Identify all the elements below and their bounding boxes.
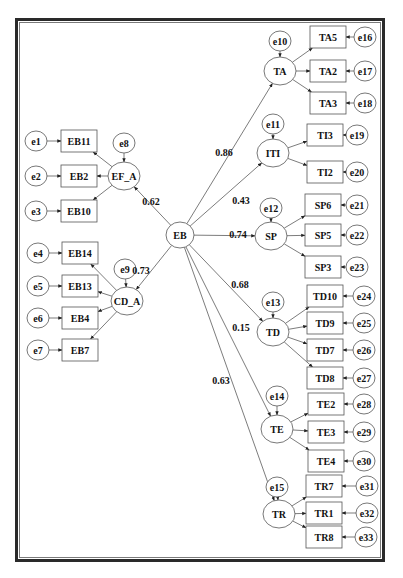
path-td-to-td7: [288, 337, 307, 344]
error-label-e22: e22: [350, 230, 364, 241]
error-label-e23: e23: [350, 262, 364, 273]
path-cd-a-to-eb13: [98, 292, 112, 296]
error-label-e31: e31: [360, 481, 374, 492]
path-coefficient-td: 0.68: [231, 279, 249, 290]
indicator-label-ti3: TI3: [317, 130, 333, 141]
error-label-e33: e33: [359, 532, 373, 543]
path-sp-to-sp3: [284, 244, 305, 256]
path-coefficient-ta: 0.86: [215, 147, 233, 158]
nodes-layer: EBEF_Ae8EB11e1EB2e2EB10e3CD_Ae9EB14e4EB1…: [25, 26, 378, 548]
error-label-e32: e32: [360, 508, 374, 519]
error-label-e16: e16: [358, 32, 372, 43]
indicator-label-eb10: EB10: [67, 206, 90, 217]
indicator-label-sp3: SP3: [315, 262, 332, 273]
path-iti-to-ti3: [288, 141, 307, 148]
error-label-e11: e11: [266, 119, 280, 130]
error-label-e4: e4: [33, 248, 42, 259]
path-ta-to-ta5: [292, 48, 312, 62]
path-ef-a-to-eb10: [93, 185, 112, 200]
error-label-e2: e2: [31, 171, 40, 182]
indicator-label-te3: TE3: [317, 427, 335, 438]
error-label-e14: e14: [270, 391, 284, 402]
indicator-label-eb13: EB13: [68, 281, 91, 292]
latent-label-te: TE: [270, 424, 284, 435]
indicator-label-sp5: SP5: [315, 230, 332, 241]
path-iti-to-ti2: [288, 158, 307, 165]
error-label-e28: e28: [357, 399, 371, 410]
indicator-label-ti2: TI2: [317, 167, 333, 178]
path-tr-to-tr8: [293, 521, 306, 528]
error-label-e26: e26: [357, 345, 371, 356]
indicator-label-sp6: SP6: [315, 200, 332, 211]
indicator-label-eb11: EB11: [68, 136, 91, 147]
latent-label-td: TD: [266, 327, 280, 338]
error-label-e19: e19: [350, 130, 364, 141]
latent-label-eb: EB: [173, 230, 187, 241]
path-eb-to-td: [189, 245, 262, 322]
error-label-e5: e5: [33, 281, 42, 292]
indicator-label-ta3: TA3: [319, 98, 337, 109]
error-label-e3: e3: [31, 206, 40, 217]
error-label-e20: e20: [350, 167, 364, 178]
error-label-e10: e10: [273, 36, 287, 47]
path-coefficient-cd-a: 0.73: [132, 265, 150, 276]
sem-path-diagram: EBEF_Ae8EB11e1EB2e2EB10e3CD_Ae9EB14e4EB1…: [0, 0, 403, 578]
error-label-e27: e27: [357, 373, 371, 384]
error-label-e6: e6: [33, 313, 42, 324]
latent-label-iti: ITI: [266, 148, 281, 159]
error-label-e29: e29: [357, 427, 371, 438]
error-label-e7: e7: [33, 345, 42, 356]
indicator-label-eb14: EB14: [68, 248, 91, 259]
error-label-e21: e21: [350, 200, 364, 211]
path-te-to-te4: [290, 437, 309, 450]
path-te-to-te2: [291, 413, 308, 422]
path-te-to-te3: [293, 430, 308, 431]
error-label-e8: e8: [119, 138, 128, 149]
path-cd-a-to-eb4: [98, 306, 112, 311]
path-ef-a-to-eb11: [93, 152, 112, 167]
indicator-label-eb4: EB4: [71, 313, 89, 324]
path-ta-to-ta3: [293, 79, 312, 92]
indicator-label-td7: TD7: [316, 345, 335, 356]
latent-label-sp: SP: [265, 231, 277, 242]
error-label-e24: e24: [357, 291, 371, 302]
error-label-e15: e15: [270, 482, 284, 493]
path-sp-to-sp6: [284, 216, 305, 228]
indicator-label-tr1: TR1: [315, 508, 334, 519]
indicator-label-eb2: EB2: [70, 171, 88, 182]
error-label-e17: e17: [358, 66, 372, 77]
indicator-label-ta2: TA2: [319, 66, 337, 77]
path-td-to-td10: [286, 307, 310, 323]
path-eb-to-iti: [190, 163, 262, 226]
indicator-label-tr7: TR7: [315, 481, 334, 492]
path-e9-to-cd-a: [126, 279, 127, 287]
error-label-e30: e30: [357, 456, 371, 467]
indicator-label-te2: TE2: [317, 399, 335, 410]
error-label-e1: e1: [31, 136, 40, 147]
indicator-label-td10: TD10: [313, 291, 337, 302]
path-td-to-td9: [289, 326, 307, 329]
latent-label-ef-a: EF_A: [112, 171, 138, 182]
indicator-label-td9: TD9: [316, 318, 335, 329]
indicator-label-te4: TE4: [317, 456, 335, 467]
latent-label-ta: TA: [273, 66, 287, 77]
path-tr-to-tr7: [292, 497, 306, 506]
indicator-label-eb7: EB7: [71, 345, 89, 356]
indicator-label-tr8: TR8: [315, 532, 334, 543]
path-coefficient-te: 0.15: [232, 322, 250, 333]
path-coefficient-iti: 0.43: [232, 195, 250, 206]
indicator-label-td8: TD8: [316, 373, 335, 384]
latent-label-tr: TR: [272, 509, 287, 520]
path-coefficient-sp: 0.74: [229, 229, 247, 240]
error-label-e9: e9: [120, 264, 129, 275]
path-coefficient-tr: 0.63: [212, 375, 230, 386]
path-coefficient-ef-a: 0.62: [142, 196, 160, 207]
error-label-e25: e25: [357, 318, 371, 329]
error-label-e12: e12: [264, 203, 278, 214]
indicator-label-ta5: TA5: [319, 32, 337, 43]
error-label-e18: e18: [358, 98, 372, 109]
latent-label-cd-a: CD_A: [114, 296, 141, 307]
error-label-e13: e13: [266, 297, 280, 308]
